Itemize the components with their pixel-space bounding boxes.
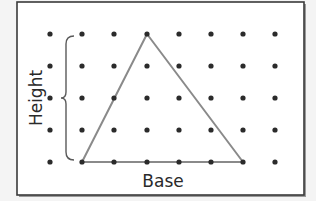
grid-dot: [272, 127, 277, 132]
grid-dot: [240, 63, 245, 68]
grid-dot: [144, 63, 149, 68]
grid-dot: [144, 159, 149, 164]
grid-dot: [272, 31, 277, 36]
grid-dot: [79, 31, 84, 36]
grid-dot: [47, 95, 52, 100]
grid-dot: [272, 95, 277, 100]
grid-dot: [208, 31, 213, 36]
grid-dot: [144, 127, 149, 132]
panel-frame: [17, 2, 304, 195]
grid-dot: [111, 127, 116, 132]
grid-dot: [272, 63, 277, 68]
grid-dot: [111, 31, 116, 36]
grid-dot: [47, 63, 52, 68]
grid-dot: [208, 63, 213, 68]
grid-dot: [111, 63, 116, 68]
grid-dot: [47, 31, 52, 36]
grid-dot: [176, 63, 181, 68]
grid-dot: [208, 159, 213, 164]
grid-dot: [208, 127, 213, 132]
grid-dot: [144, 95, 149, 100]
grid-dot: [111, 95, 116, 100]
grid-dot: [176, 31, 181, 36]
grid-dot: [47, 127, 52, 132]
grid-dot: [272, 159, 277, 164]
figure: Height Base: [0, 0, 316, 201]
grid-dot: [79, 127, 84, 132]
grid-dot: [144, 31, 149, 36]
grid-dot: [79, 159, 84, 164]
grid-dot: [176, 159, 181, 164]
grid-dot: [240, 127, 245, 132]
grid-dot: [240, 95, 245, 100]
grid-dot: [47, 159, 52, 164]
grid-dot: [176, 127, 181, 132]
grid-dot: [208, 95, 213, 100]
grid-dot: [79, 63, 84, 68]
grid-dot: [176, 95, 181, 100]
grid-dot: [240, 159, 245, 164]
height-label: Height: [26, 70, 46, 127]
base-label: Base: [142, 171, 183, 191]
grid-dot: [240, 31, 245, 36]
grid-dot: [111, 159, 116, 164]
grid-dot: [79, 95, 84, 100]
